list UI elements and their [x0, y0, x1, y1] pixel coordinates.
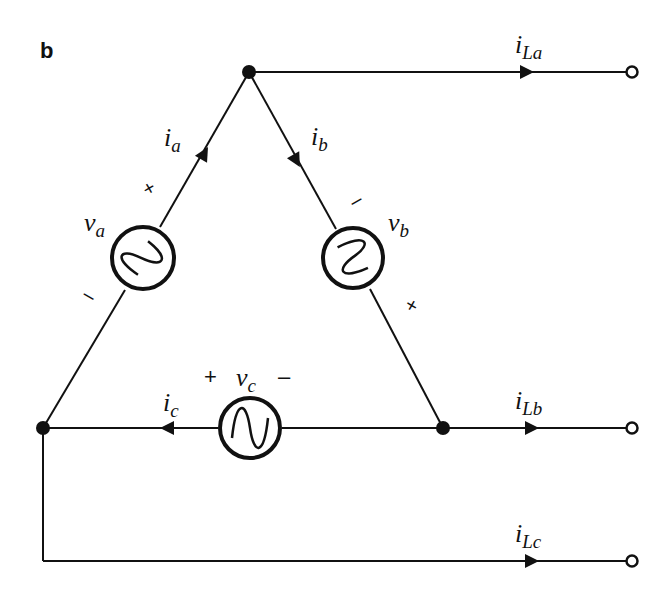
label-vc: vc	[236, 365, 256, 395]
panel-label: b	[40, 38, 53, 64]
polarity-vc-minus: –	[278, 366, 290, 388]
label-vb: vb	[388, 210, 409, 240]
terminal-c	[627, 556, 638, 567]
node-bottom-right	[436, 421, 450, 435]
label-ib: ib	[311, 124, 328, 154]
node-top	[242, 65, 256, 79]
label-iLc: iLc	[515, 521, 541, 551]
terminal-b	[627, 423, 638, 434]
label-iLb: iLb	[515, 388, 542, 418]
label-iLa: iLa	[515, 32, 542, 62]
circuit-diagram	[0, 0, 654, 611]
wire-branch-a-lower	[43, 290, 125, 428]
arrow-line-b-icon	[525, 421, 539, 435]
node-bottom-left	[36, 421, 50, 435]
arrow-line-c-icon	[525, 554, 539, 568]
ac-source-vc	[220, 398, 280, 458]
arrow-ic-icon	[160, 421, 174, 435]
arrow-ib-icon	[287, 151, 306, 170]
label-ic: ic	[163, 390, 179, 420]
arrow-line-a-icon	[520, 65, 534, 79]
label-va: va	[84, 210, 105, 240]
polarity-vc-plus: +	[204, 366, 217, 388]
terminal-a	[627, 67, 638, 78]
ac-source-va	[112, 227, 174, 289]
ac-source-vb	[323, 228, 383, 288]
label-ia: ia	[164, 125, 181, 155]
